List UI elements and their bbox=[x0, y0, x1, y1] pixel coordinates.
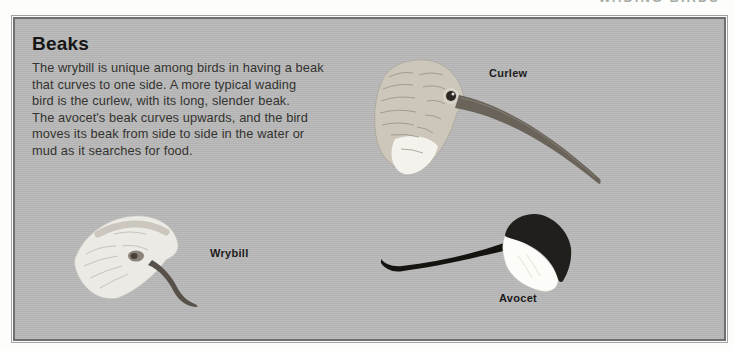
paragraph-line: The avocet's beak curves upwards, and th… bbox=[32, 110, 324, 127]
paragraph-line: The wrybill is unique among birds in hav… bbox=[32, 60, 324, 77]
paragraph-line: mud as it searches for food. bbox=[32, 143, 324, 160]
curlew-beak bbox=[455, 95, 601, 184]
wrybill-eye-dark bbox=[131, 253, 138, 259]
curlew-eye bbox=[446, 91, 456, 101]
wrybill-label: Wrybill bbox=[210, 247, 249, 259]
wrybill-figure bbox=[68, 204, 208, 314]
avocet-beak bbox=[381, 242, 508, 272]
paragraph-line: bird is the curlew, with its long, slend… bbox=[32, 93, 324, 110]
avocet-illustration bbox=[378, 208, 576, 296]
wrybill-illustration bbox=[68, 204, 208, 314]
paragraph-line: moves its beak from side to side in the … bbox=[32, 126, 324, 143]
wrybill-beak bbox=[148, 260, 197, 307]
panel-title: Beaks bbox=[32, 33, 89, 55]
paragraph-line: that curves to one side. A more typical … bbox=[32, 77, 324, 94]
curlew-eye-highlight bbox=[452, 93, 455, 96]
curlew-throat bbox=[392, 136, 438, 174]
avocet-label: Avocet bbox=[499, 292, 537, 304]
curlew-label: Curlew bbox=[489, 67, 527, 79]
panel-paragraph: The wrybill is unique among birds in hav… bbox=[32, 60, 324, 160]
book-page: WADING BIRDS Beaks The wrybill is unique… bbox=[0, 0, 734, 350]
avocet-figure bbox=[378, 208, 576, 296]
beaks-panel: Beaks The wrybill is unique among birds … bbox=[13, 17, 726, 341]
running-header: WADING BIRDS bbox=[599, 0, 721, 5]
